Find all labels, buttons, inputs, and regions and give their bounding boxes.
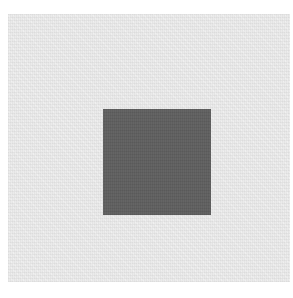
dark-gray-square <box>103 109 211 215</box>
textured-background-field <box>8 14 290 282</box>
